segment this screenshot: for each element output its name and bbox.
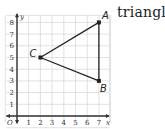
y-tick-label: 4 (10, 66, 15, 74)
point-a-label: A (101, 10, 109, 21)
x-tick-label: 1 (26, 119, 30, 127)
x-tick-label: 2 (38, 119, 42, 127)
x-axis-label: x (106, 119, 110, 127)
y-tick-label: 1 (10, 101, 14, 109)
y-axis-label: y (19, 13, 25, 21)
y-tick-label: 2 (10, 89, 14, 97)
tick-labels: 123456712345678Oxy (7, 13, 110, 127)
coordinate-plane: 123456712345678Oxy ABC (0, 0, 118, 129)
y-tick-label: 8 (10, 19, 14, 27)
point-b-label: B (100, 83, 107, 94)
point-c-marker (38, 56, 42, 60)
y-tick-label: 6 (10, 42, 15, 50)
x-tick-label: 7 (97, 119, 101, 127)
x-tick-label: 4 (62, 119, 67, 127)
x-tick-label: 3 (50, 119, 54, 127)
origin-label: O (7, 119, 13, 127)
y-tick-label: 3 (10, 77, 14, 85)
x-axis-arrow-left-icon (6, 114, 10, 118)
grid (5, 15, 110, 127)
x-tick-label: 6 (85, 119, 90, 127)
x-tick-label: 5 (73, 119, 77, 127)
triangle-abc (40, 22, 99, 81)
y-tick-label: 5 (10, 54, 14, 62)
caption-word: triangle (117, 4, 165, 20)
point-c-label: C (29, 48, 36, 59)
vertex-points: ABC (29, 10, 109, 94)
y-tick-label: 7 (10, 31, 14, 39)
axes (6, 13, 110, 124)
y-axis-arrow-down-icon (15, 120, 19, 124)
segment-ca (40, 22, 99, 57)
point-a-marker (97, 20, 101, 24)
